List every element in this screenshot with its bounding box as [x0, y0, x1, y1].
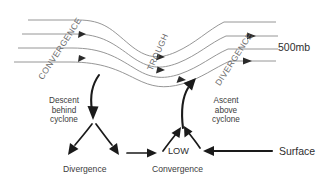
surface-transport-arrow: [127, 149, 157, 158]
flow-arrow-icon-4: [156, 67, 165, 74]
divergence-left-shaft: [75, 124, 92, 145]
flow-arrow-icon-5: [177, 76, 187, 83]
descent-behind-cyclone-label: Descent behind cyclone: [38, 96, 90, 125]
surface-level-label: Surface: [279, 145, 315, 157]
low-pressure-center-label: LOW: [168, 146, 189, 157]
flow-arrow-icon-7: [243, 58, 252, 65]
cyclone-diagram: CONVERGENCE TROUGH DIVERGENCE 500mb Desc…: [0, 0, 332, 182]
surface-divergence-label: Divergence: [63, 164, 106, 174]
surface-convergence-label: Convergence: [152, 164, 203, 174]
surface-inflow-arrow: [203, 146, 272, 156]
divergence-right-arrowhead-icon: [109, 143, 119, 155]
ascent-arrow-shaft: [182, 88, 188, 128]
pressure-level-500mb-label: 500mb: [278, 41, 310, 53]
ascent-flow-arrow: [182, 78, 196, 128]
transport-arrowhead-icon: [147, 149, 157, 158]
convergence-left-arrowhead-icon: [172, 127, 182, 138]
surface-inflow-arrowhead-icon: [203, 146, 214, 156]
ascent-above-cyclone-label: Ascent above cyclone: [200, 96, 252, 125]
descent-arrow-shaft: [91, 75, 99, 110]
convergence-right-shaft: [188, 132, 200, 148]
divergence-right-shaft: [96, 124, 112, 145]
divergence-left-arrowhead-icon: [68, 143, 79, 155]
surface-divergence-arrows: [68, 124, 119, 155]
flow-arrow-icon-2: [78, 55, 86, 62]
flow-arrow-icon-1: [78, 31, 86, 38]
